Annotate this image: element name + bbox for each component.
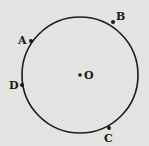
point-label-c: C <box>104 132 113 145</box>
point-c <box>107 126 111 130</box>
point-a <box>29 39 33 43</box>
center-point-o <box>78 73 82 77</box>
circle-diagram: O A B D C <box>0 0 149 146</box>
point-label-a: A <box>17 34 27 47</box>
point-label-d: D <box>9 79 19 92</box>
center-label-o: O <box>84 69 94 82</box>
point-d <box>20 83 24 87</box>
point-label-b: B <box>116 10 125 23</box>
diagram-canvas: O A B D C <box>0 0 149 146</box>
point-b <box>111 20 115 24</box>
